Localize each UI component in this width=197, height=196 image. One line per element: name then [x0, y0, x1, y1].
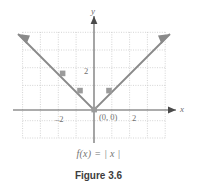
y-axis [91, 16, 98, 143]
y-axis-arrowhead [91, 16, 98, 24]
point-marker [106, 88, 112, 94]
figure-container: y x –2 2 2 (0, 0) f(x) = | x | Figure 3.… [0, 0, 197, 196]
x-axis-arrowhead [168, 107, 176, 114]
x-tick-label-negative-2: –2 [55, 115, 64, 124]
graph-svg [0, 0, 197, 145]
origin-point-label: (0, 0) [99, 113, 117, 122]
graph-plot-area [0, 0, 197, 145]
point-marker-origin [91, 107, 97, 113]
point-marker [60, 71, 66, 77]
curve-left-arrowhead [18, 34, 30, 44]
point-markers [60, 71, 112, 113]
y-axis-label: y [91, 7, 95, 16]
function-expression: f(x) = | x | [0, 148, 197, 159]
point-marker [77, 88, 83, 94]
figure-caption: Figure 3.6 [0, 170, 197, 181]
y-tick-label-2: 2 [84, 67, 88, 76]
x-axis-label: x [180, 105, 184, 114]
curve-right-arrowhead [158, 34, 170, 44]
x-tick-label-positive-2: 2 [132, 114, 136, 123]
